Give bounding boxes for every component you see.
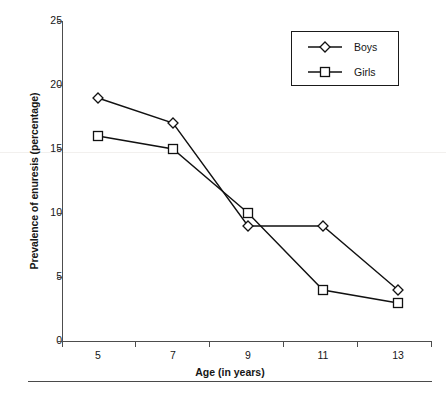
diamond-marker-icon <box>306 36 344 58</box>
data-point-girls-5 <box>94 132 103 141</box>
series-line-boys <box>98 98 398 290</box>
footer-divider <box>28 381 432 382</box>
legend-label-boys: Boys <box>354 36 377 58</box>
legend-label-girls: Girls <box>354 61 376 83</box>
legend: Boys Girls <box>291 31 399 86</box>
data-point-girls-9 <box>244 209 253 218</box>
data-point-boys-7 <box>168 118 178 128</box>
chart-figure: Prevalence of enuresis (percentage) 25 2… <box>0 0 446 394</box>
series-line-girls <box>98 136 398 303</box>
data-point-girls-7 <box>169 145 178 154</box>
y-axis-ticks <box>57 22 62 342</box>
series-markers-boys <box>93 93 403 295</box>
data-point-girls-11 <box>319 286 328 295</box>
data-point-boys-5 <box>93 93 103 103</box>
legend-entry-boys: Boys <box>292 36 400 58</box>
legend-entry-girls: Girls <box>292 61 400 83</box>
data-point-girls-13 <box>394 299 403 308</box>
data-point-boys-9 <box>243 221 253 231</box>
square-marker-icon <box>306 61 344 83</box>
series-markers-girls <box>94 132 403 308</box>
